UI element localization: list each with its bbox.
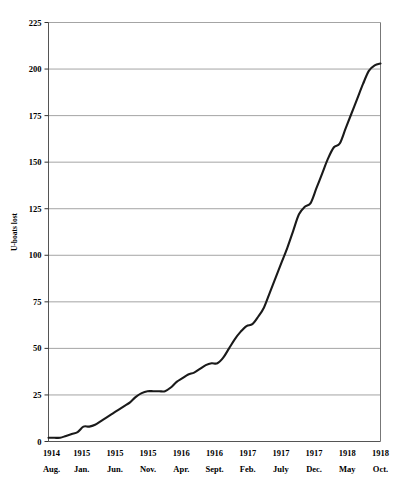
y-axis-tick-label: 25 bbox=[33, 390, 42, 400]
x-axis-year-label: 1917 bbox=[272, 448, 290, 458]
x-axis-month-label: Apr. bbox=[173, 464, 189, 474]
x-axis-year-label: 1918 bbox=[339, 448, 356, 458]
x-axis-year-label: 1914 bbox=[43, 448, 61, 458]
u-boats-lost-line-chart: 0255075100125150175200225 1914Aug.1915Ja… bbox=[0, 0, 404, 486]
x-axis-month-label: Jun. bbox=[107, 464, 123, 474]
x-axis-month-label: Dec. bbox=[306, 464, 322, 474]
x-axis-month-label: Aug. bbox=[43, 464, 60, 474]
y-axis-tick-label: 100 bbox=[29, 250, 42, 260]
x-axis-year-label: 1916 bbox=[173, 448, 190, 458]
y-axis-tick-label: 175 bbox=[29, 111, 42, 121]
y-axis-tick-label: 50 bbox=[33, 343, 42, 353]
y-axis-tick-label: 0 bbox=[37, 437, 41, 447]
x-axis-month-label: Jan. bbox=[74, 464, 89, 474]
y-axis-tick-label: 75 bbox=[33, 297, 42, 307]
x-axis-month-label: Sept. bbox=[205, 464, 223, 474]
y-axis-tick-label: 150 bbox=[29, 157, 42, 167]
chart-container: 0255075100125150175200225 1914Aug.1915Ja… bbox=[0, 0, 404, 486]
x-axis-year-label: 1915 bbox=[140, 448, 157, 458]
x-axis-year-label: 1916 bbox=[206, 448, 223, 458]
x-axis-year-label: 1915 bbox=[106, 448, 123, 458]
x-axis-month-label: Oct. bbox=[373, 464, 388, 474]
x-axis-month-label: Feb. bbox=[240, 464, 256, 474]
chart-background bbox=[0, 0, 404, 486]
x-axis-month-label: Nov. bbox=[140, 464, 156, 474]
x-axis-month-label: May bbox=[339, 464, 356, 474]
y-axis-title: U-boats lost bbox=[10, 212, 19, 251]
x-axis-year-label: 1915 bbox=[73, 448, 90, 458]
x-axis-year-label: 1917 bbox=[306, 448, 324, 458]
y-axis-tick-label: 225 bbox=[29, 18, 42, 28]
y-axis-tick-label: 125 bbox=[29, 204, 42, 214]
x-axis-month-label: July bbox=[273, 464, 289, 474]
x-axis-year-label: 1918 bbox=[372, 448, 389, 458]
x-axis-year-label: 1917 bbox=[239, 448, 257, 458]
y-axis-tick-label: 200 bbox=[29, 64, 42, 74]
